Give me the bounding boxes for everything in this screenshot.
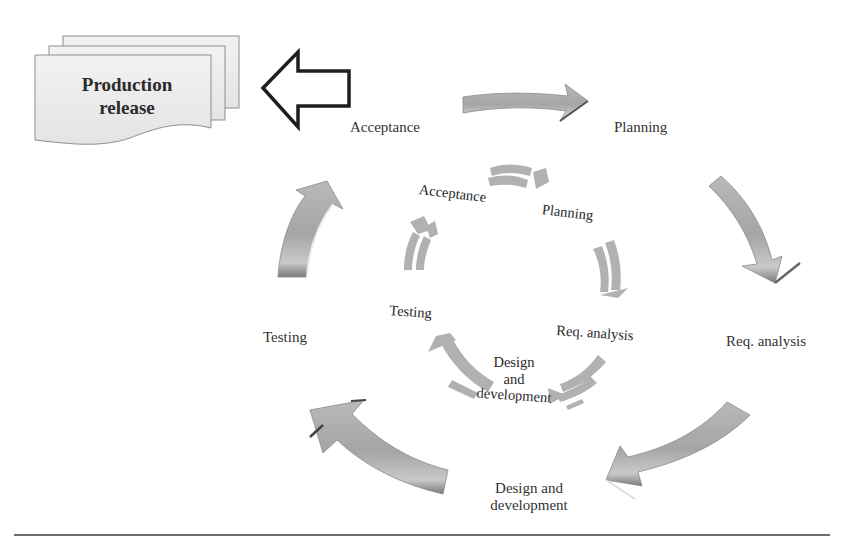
inner-label-design-line1: Design — [466, 354, 562, 371]
inner-arrow-testing-to-acceptance-icon — [404, 216, 438, 270]
bottom-divider — [14, 534, 830, 536]
release-arrow-icon — [263, 52, 349, 127]
inner-label-design-development: Design and development — [466, 354, 562, 404]
inner-arrow-acceptance-to-planning-icon — [488, 165, 549, 189]
outer-label-design-line1: Design and — [474, 480, 584, 497]
inner-label-design-line3: development — [466, 384, 563, 407]
production-release-line1: Production — [52, 74, 202, 97]
production-release-label: Production release — [52, 74, 202, 120]
inner-label-testing: Testing — [389, 302, 433, 322]
outer-arrow-testing-to-acceptance-icon — [278, 181, 343, 277]
outer-arrow-req-analysis-to-design-icon — [606, 402, 750, 499]
outer-label-design-line2: development — [474, 497, 584, 514]
outer-label-req-analysis: Req. analysis — [726, 333, 806, 350]
outer-label-testing: Testing — [263, 329, 307, 346]
production-release-line2: release — [52, 97, 202, 120]
outer-arrow-design-to-testing-icon — [310, 400, 448, 494]
outer-label-planning: Planning — [614, 119, 667, 136]
outer-label-acceptance: Acceptance — [350, 119, 420, 136]
outer-arrow-acceptance-to-planning-icon — [463, 84, 588, 121]
outer-label-design-development: Design and development — [474, 480, 584, 515]
inner-arrow-planning-to-req-analysis-icon — [593, 240, 628, 298]
outer-arrow-planning-to-req-analysis-icon — [709, 176, 800, 283]
